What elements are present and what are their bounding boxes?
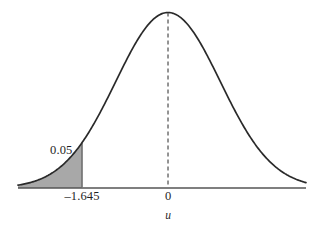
normal-curve: [18, 13, 306, 186]
tail-area-label: 0.05: [50, 143, 72, 158]
x-tick-label-critical-value: –1.645: [0, 189, 164, 204]
x-tick-label-zero: 0: [148, 189, 188, 204]
x-axis-title: u: [148, 209, 188, 221]
normal-distribution-figure: 0.05 –1.645 0 u: [0, 0, 312, 230]
